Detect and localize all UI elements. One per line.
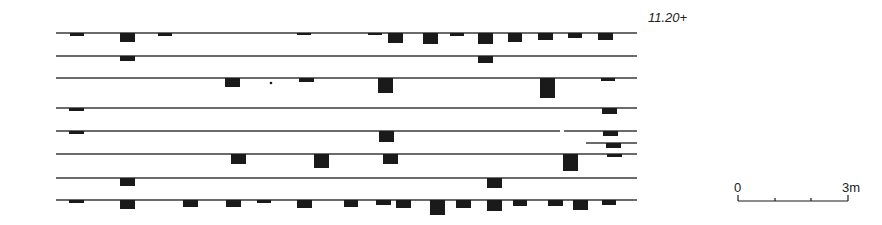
stone-block <box>297 33 311 35</box>
stone-block <box>450 33 464 36</box>
course-row <box>56 78 637 98</box>
stone-block <box>226 200 241 207</box>
stone-block <box>607 154 622 157</box>
stone-block <box>231 154 246 164</box>
scale-bar <box>738 195 848 201</box>
stone-block <box>120 178 135 186</box>
stone-block <box>376 200 391 205</box>
stone-block <box>563 154 578 171</box>
course-row <box>56 56 637 63</box>
stone-block <box>69 108 84 111</box>
stone-block <box>538 33 553 40</box>
masonry-courses-elevation <box>0 0 882 225</box>
course-row <box>56 200 637 215</box>
stone-block <box>548 200 563 206</box>
stone-block <box>120 33 135 42</box>
stone-block <box>540 78 555 98</box>
stone-block <box>573 200 588 210</box>
stone-block <box>368 33 382 35</box>
stone-block <box>379 131 394 142</box>
stone-block <box>602 108 617 114</box>
stone-block <box>257 200 271 203</box>
stone-block <box>606 143 621 148</box>
stone-block <box>423 33 438 44</box>
stone-block <box>513 200 527 206</box>
stone-block <box>299 78 314 82</box>
stone-block <box>568 33 582 38</box>
stone-block <box>478 33 493 44</box>
stone-block <box>120 56 135 61</box>
course-row <box>56 108 637 114</box>
stone-block <box>158 33 172 36</box>
stone-block <box>378 78 393 93</box>
stone-block <box>69 200 84 203</box>
scale-start-label: 0 <box>734 180 741 195</box>
stone-block <box>70 33 84 36</box>
stone-block <box>603 131 618 136</box>
stone-block <box>183 200 198 207</box>
course-row <box>56 154 637 171</box>
stray-mark <box>270 82 273 85</box>
stone-block <box>396 200 411 208</box>
stone-block <box>478 56 493 63</box>
stone-block <box>456 200 471 208</box>
course-row <box>586 143 637 148</box>
course-row <box>56 178 637 188</box>
stone-block <box>601 78 615 81</box>
course-row <box>56 33 637 44</box>
stone-block <box>508 33 522 42</box>
stone-block <box>69 131 84 134</box>
stone-block <box>297 200 312 208</box>
stone-block <box>120 200 135 209</box>
stone-block <box>430 200 445 215</box>
stone-block <box>487 178 502 188</box>
stone-block <box>314 154 329 168</box>
stone-block <box>598 33 613 40</box>
stone-block <box>383 154 398 164</box>
stone-block <box>225 78 240 87</box>
stone-block <box>388 33 403 43</box>
stone-block <box>487 200 502 211</box>
stone-block <box>344 200 358 207</box>
stone-block <box>602 200 616 205</box>
course-row <box>56 131 560 142</box>
course-row <box>564 131 637 136</box>
scale-end-label: 3m <box>842 180 860 195</box>
